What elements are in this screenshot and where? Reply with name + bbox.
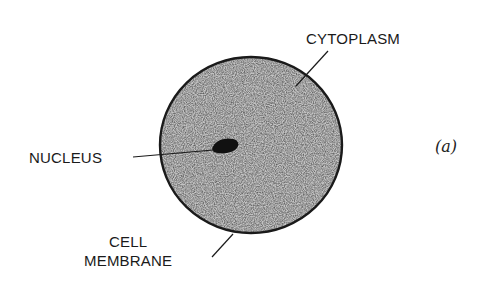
- panel-label: (a): [435, 137, 457, 156]
- cytoplasm-label: CYTOPLASM: [306, 31, 400, 47]
- cell-membrane-label-line1: CELL: [84, 232, 172, 251]
- cell-diagram: CYTOPLASM NUCLEUS CELL MEMBRANE (a): [0, 0, 485, 291]
- cell-membrane-label-line2: MEMBRANE: [84, 251, 172, 270]
- cell-diagram-svg: [0, 0, 485, 291]
- membrane-leader-line: [212, 234, 233, 257]
- cell-membrane-label: CELL MEMBRANE: [84, 232, 172, 270]
- nucleus-label: NUCLEUS: [29, 150, 102, 166]
